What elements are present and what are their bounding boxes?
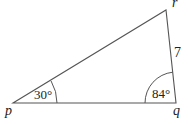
- vertex-label-p: p: [4, 103, 12, 118]
- side-label-qr: 7: [174, 45, 181, 60]
- vertex-label-q: q: [173, 103, 180, 118]
- angle-label-p: 30°: [34, 87, 52, 102]
- angle-label-q: 84°: [152, 86, 170, 101]
- triangle-diagram: p q r 30° 84° 7: [0, 0, 188, 124]
- vertex-label-r: r: [172, 0, 178, 10]
